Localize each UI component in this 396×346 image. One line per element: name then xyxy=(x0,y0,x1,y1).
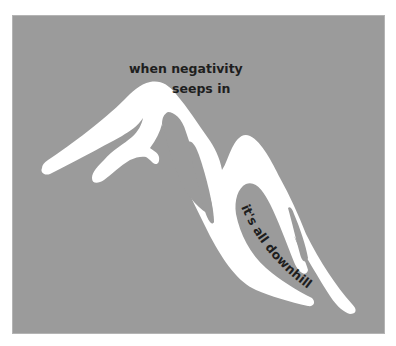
caption-line-1: when negativity xyxy=(129,61,243,76)
caption-line-2: seeps in xyxy=(172,81,230,96)
illustration-canvas: when negativity seeps in it's all downhi… xyxy=(0,0,396,346)
mountain-illustration: when negativity seeps in it's all downhi… xyxy=(0,0,396,346)
